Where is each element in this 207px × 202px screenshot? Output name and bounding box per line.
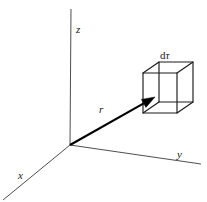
figure-canvas	[0, 0, 207, 202]
position-vector-label: r	[99, 104, 103, 115]
coordinate-system-figure: z y x r dτ	[0, 0, 207, 202]
position-vector-group	[70, 97, 155, 145]
x-axis-label: x	[18, 170, 23, 181]
cube-connector-bottom-right	[177, 102, 193, 113]
volume-element-label: dτ	[160, 50, 169, 61]
z-axis-label: z	[76, 24, 80, 35]
cube-front-face	[143, 73, 177, 113]
y-axis-label: y	[177, 149, 182, 160]
position-vector-shaft	[70, 103, 144, 145]
cube-back-face	[159, 62, 193, 102]
volume-element-label-symbol: τ	[166, 49, 170, 61]
z-axis-line	[70, 9, 71, 145]
cube-connector-top-left	[143, 62, 159, 73]
cube-connector-top-right	[177, 62, 193, 73]
volume-element-cube	[143, 62, 193, 113]
x-axis-line	[3, 145, 70, 200]
